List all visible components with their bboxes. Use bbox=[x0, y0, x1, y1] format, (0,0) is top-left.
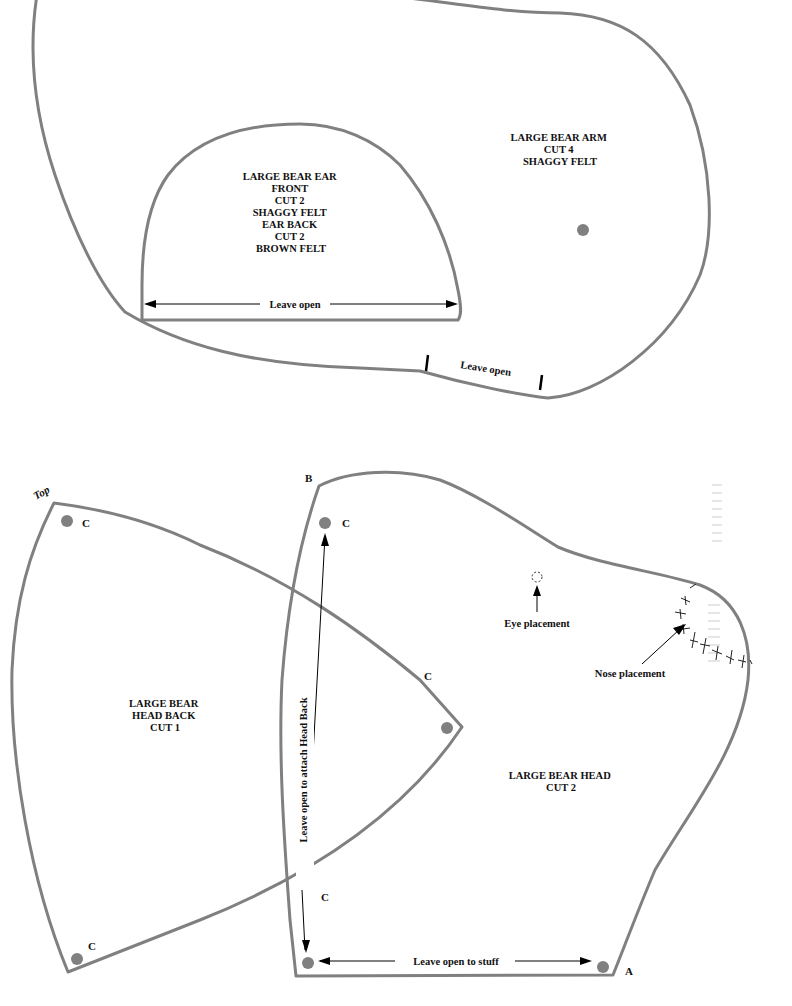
head-back-label-line: LARGE BEAR bbox=[129, 698, 199, 709]
head-label-line: LARGE BEAR HEAD bbox=[509, 770, 612, 781]
eye-placement-marker bbox=[532, 572, 542, 582]
nose-placement-label: Nose placement bbox=[595, 668, 666, 679]
ear-label: LARGE BEAR EAR FRONT CUT 2 SHAGGY FELT E… bbox=[243, 171, 340, 254]
head-corner-b: B bbox=[305, 472, 313, 484]
ear-label-line: SHAGGY FELT bbox=[253, 207, 327, 218]
arm-label: LARGE BEAR ARM CUT 4 SHAGGY FELT bbox=[511, 132, 610, 167]
arm-label-line: LARGE BEAR ARM bbox=[511, 132, 607, 143]
head-back-marker-c: C bbox=[88, 940, 96, 952]
head-back-label-line: CUT 1 bbox=[150, 722, 180, 733]
ear-label-line: FRONT bbox=[271, 183, 308, 194]
head-outline bbox=[281, 472, 749, 976]
scan-artifacts bbox=[708, 484, 722, 662]
arm-opening-label: Leave open bbox=[460, 359, 512, 378]
arm-placement-dot bbox=[577, 224, 589, 236]
arm-label-line: SHAGGY FELT bbox=[523, 156, 597, 167]
head-back-marker-c: C bbox=[82, 517, 90, 529]
head-dot-bottom-right bbox=[597, 961, 609, 973]
ear-piece: Leave open LARGE BEAR EAR FRONT CUT 2 SH… bbox=[142, 124, 461, 320]
head-piece: B A C C Leave open to attach Head Back L… bbox=[281, 472, 752, 977]
head-back-label-line: HEAD BACK bbox=[132, 710, 196, 721]
head-label: LARGE BEAR HEAD CUT 2 bbox=[509, 770, 614, 793]
ear-label-line: CUT 2 bbox=[275, 195, 305, 206]
ear-label-line: EAR BACK bbox=[262, 219, 318, 230]
head-dot-top bbox=[319, 517, 331, 529]
nose-placement-arrow bbox=[642, 624, 686, 664]
head-marker-c: C bbox=[321, 891, 329, 903]
ear-opening-label: Leave open bbox=[269, 299, 320, 310]
ear-label-line: BROWN FELT bbox=[256, 243, 326, 254]
head-label-line: CUT 2 bbox=[546, 782, 576, 793]
ear-label-line: LARGE BEAR EAR bbox=[243, 171, 337, 182]
arm-outline bbox=[33, 0, 709, 398]
head-back-outline bbox=[12, 503, 462, 972]
head-back-label: LARGE BEAR HEAD BACK CUT 1 bbox=[129, 698, 201, 733]
head-marker-c: C bbox=[342, 517, 350, 529]
head-back-top-label: Top bbox=[31, 483, 52, 502]
head-dot-bottom-left bbox=[302, 957, 314, 969]
ear-label-line: CUT 2 bbox=[275, 231, 305, 242]
arm-opening-tick-right bbox=[540, 375, 542, 390]
head-corner-a: A bbox=[625, 965, 633, 977]
head-back-piece: C C C Top LARGE BEAR HEAD BACK CUT 1 bbox=[12, 483, 462, 972]
head-back-marker-c: C bbox=[424, 670, 432, 682]
eye-placement-arrow bbox=[533, 585, 541, 612]
head-side-opening-label: Leave open to attach Head Back bbox=[298, 697, 309, 842]
head-bottom-opening-label: Leave open to stuff bbox=[413, 956, 499, 967]
head-back-dot-bottom bbox=[71, 953, 83, 965]
arm-piece: Leave open LARGE BEAR ARM CUT 4 SHAGGY F… bbox=[33, 0, 709, 398]
arm-label-line: CUT 4 bbox=[544, 144, 575, 155]
sewing-pattern-sheet: Leave open LARGE BEAR ARM CUT 4 SHAGGY F… bbox=[0, 0, 792, 1006]
eye-placement-label: Eye placement bbox=[504, 618, 570, 629]
head-back-dot-top bbox=[61, 515, 73, 527]
head-back-dot-right bbox=[441, 722, 453, 734]
arm-opening-tick-left bbox=[426, 355, 428, 371]
